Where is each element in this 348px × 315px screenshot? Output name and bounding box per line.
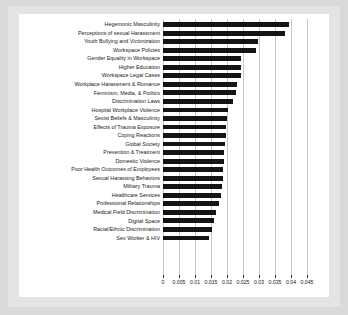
x-tick-label: 0.005 (173, 279, 186, 285)
category-label: Hegemonic Masculinity (105, 20, 160, 29)
bar-row (163, 46, 307, 55)
chart-canvas: Hegemonic MasculinityPerceptions of sexu… (19, 14, 329, 297)
category-label: Sexist Beliefs & Masculinity (94, 114, 160, 123)
bar-row (163, 80, 307, 89)
bar (163, 236, 209, 241)
bar (163, 39, 258, 44)
x-tick (195, 275, 196, 278)
bar (163, 218, 214, 223)
bar-row (163, 182, 307, 191)
bar (163, 22, 289, 27)
bar (163, 150, 224, 155)
x-tick-label: 0.02 (222, 279, 232, 285)
x-tick-label: 0 (162, 279, 165, 285)
bar-row (163, 148, 307, 157)
category-label: Perceptions of sexual Harassment (78, 29, 160, 38)
bar-row (163, 123, 307, 132)
category-label: Workspace Policies (113, 46, 160, 55)
x-tick (211, 275, 212, 278)
bar-row (163, 199, 307, 208)
x-tick (291, 275, 292, 278)
x-axis: 00.0050.010.0150.020.0250.030.0350.040.0… (163, 275, 307, 295)
bar-row (163, 217, 307, 226)
category-label: Workplace Harassment & Romance (74, 80, 160, 89)
bar-row (163, 191, 307, 200)
category-label: Effects of Trauma Exposure (94, 123, 160, 132)
bar (163, 201, 219, 206)
bar (163, 48, 256, 53)
bar (163, 56, 241, 61)
bar (163, 167, 223, 172)
x-tick-label: 0.01 (190, 279, 200, 285)
bar (163, 31, 285, 36)
bar (163, 142, 225, 147)
x-tick (307, 275, 308, 278)
bar-row (163, 234, 307, 243)
bar (163, 193, 221, 198)
bar (163, 82, 237, 87)
bar (163, 210, 216, 215)
bar (163, 65, 241, 70)
bar (163, 108, 228, 113)
category-label: Workspace Legal Cases (102, 71, 160, 80)
category-label: Discrimination Laws (112, 97, 160, 106)
bar-row (163, 29, 307, 38)
bar-row (163, 140, 307, 149)
bar-row (163, 208, 307, 217)
bar (163, 133, 226, 138)
category-label: Professional Relationships (96, 199, 160, 208)
x-tick (259, 275, 260, 278)
category-label: Medical Field Discrimination (93, 208, 160, 217)
category-axis-labels: Hegemonic MasculinityPerceptions of sexu… (19, 19, 160, 275)
category-label: Sex Worker & HIV (116, 234, 160, 243)
bar-row (163, 20, 307, 29)
category-label: Domestic Violence (115, 157, 160, 166)
bar (163, 184, 222, 189)
bar (163, 99, 233, 104)
category-label: Digital Space (128, 217, 160, 226)
bar (163, 90, 236, 95)
bar-row (163, 157, 307, 166)
bar-row (163, 63, 307, 72)
bar-row (163, 97, 307, 106)
x-tick-label: 0.015 (205, 279, 218, 285)
category-label: Prevention & Treatment (103, 148, 160, 157)
bar (163, 176, 223, 181)
bar-row (163, 114, 307, 123)
bar-row (163, 89, 307, 98)
category-label: Hospital Workplace Violence (92, 106, 160, 115)
bar-row (163, 37, 307, 46)
plot-area (163, 19, 307, 275)
category-label: Healthcare Services (112, 191, 160, 200)
x-tick (243, 275, 244, 278)
bar-row (163, 174, 307, 183)
bar-row (163, 131, 307, 140)
x-tick-label: 0.035 (269, 279, 282, 285)
x-tick (163, 275, 164, 278)
bar-row (163, 106, 307, 115)
x-tick-label: 0.045 (301, 279, 314, 285)
x-tick-label: 0.04 (286, 279, 296, 285)
category-label: Feminism, Media, & Politics (94, 89, 160, 98)
category-label: Youth Bullying and Victimization (84, 37, 160, 46)
gridline (307, 19, 308, 275)
category-label: Poor Health Outcomes of Employees (71, 165, 160, 174)
bar (163, 125, 226, 130)
category-label: Racial/Ethnic Discrimination (93, 225, 160, 234)
x-tick (227, 275, 228, 278)
category-label: Sexual Harassing Behaviors (92, 174, 160, 183)
category-label: Coping Reactions (117, 131, 160, 140)
bar (163, 116, 227, 121)
bar (163, 227, 212, 232)
bar-row (163, 225, 307, 234)
bar-row (163, 54, 307, 63)
figure-frame: Hegemonic MasculinityPerceptions of sexu… (0, 0, 348, 315)
bar-row (163, 71, 307, 80)
bar-row (163, 165, 307, 174)
x-tick (179, 275, 180, 278)
category-label: Military Trauma (123, 182, 160, 191)
x-tick-label: 0.03 (254, 279, 264, 285)
x-tick (275, 275, 276, 278)
category-label: Gender Equality in Workspace (87, 54, 160, 63)
bar (163, 73, 241, 78)
